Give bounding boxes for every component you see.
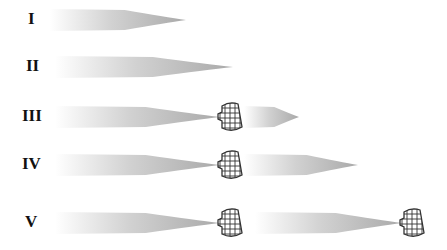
row-V bbox=[55, 205, 428, 241]
row-II bbox=[55, 56, 233, 78]
plume-diagram bbox=[0, 0, 447, 250]
net-icon bbox=[398, 205, 428, 241]
net-icon bbox=[216, 205, 246, 241]
row-III bbox=[55, 99, 299, 135]
plume-shape bbox=[55, 154, 220, 176]
net-icon bbox=[216, 99, 246, 135]
plume-shape bbox=[50, 9, 186, 31]
plume-shape bbox=[55, 56, 233, 78]
net-icon bbox=[216, 147, 246, 183]
plume-shape bbox=[244, 106, 299, 128]
row-I bbox=[50, 9, 186, 31]
plume-shape bbox=[255, 212, 402, 234]
plume-shape bbox=[244, 154, 358, 176]
plume-shape bbox=[55, 106, 220, 128]
row-IV bbox=[55, 147, 358, 183]
plume-shape bbox=[55, 212, 220, 234]
